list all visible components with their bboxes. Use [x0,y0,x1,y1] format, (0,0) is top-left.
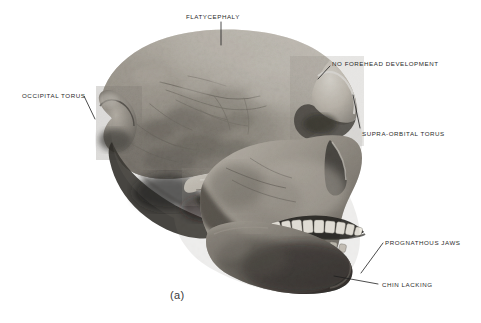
annotation-label-chin-lacking: CHIN LACKING [382,282,433,288]
skull-photograph [0,0,481,323]
figure-caption: (a) [170,289,185,301]
annotation-label-occipital-torus: OCCIPITAL TORUS [22,93,85,99]
figure-container: FLATYCEPHALY NO FOREHEAD DEVELOPMENT OCC… [0,0,481,323]
annotation-label-prognathous-jaws: PROGNATHOUS JAWS [385,240,461,246]
annotation-label-flatycephaly: FLATYCEPHALY [186,14,240,20]
annotation-label-no-forehead-development: NO FOREHEAD DEVELOPMENT [332,61,439,67]
annotation-label-supra-orbital-torus: SUPRA-ORBITAL TORUS [362,131,445,137]
